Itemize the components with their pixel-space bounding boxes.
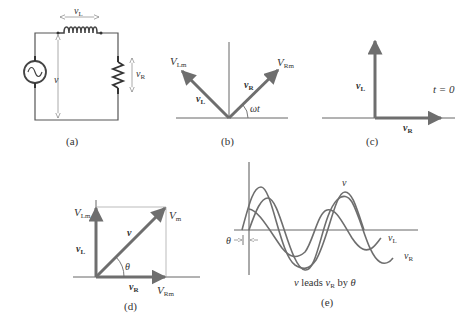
angle-arc <box>116 257 124 277</box>
caption-c: (c) <box>366 135 379 148</box>
wire-top-right <box>101 33 118 58</box>
panel-a-circuit: vL v vR (a) <box>24 5 145 148</box>
label-VRm: VRm <box>277 56 294 70</box>
label-vL: vL <box>388 232 397 245</box>
wire-bottom <box>35 83 118 120</box>
caption-e: (e) <box>321 296 334 309</box>
panel-c-phasors: vL vR t = 0 (c) <box>322 41 455 148</box>
phasor-Vm <box>96 208 165 277</box>
label-VLm: VLm <box>170 55 187 69</box>
caption-d: (d) <box>124 300 137 313</box>
label-vR: vR <box>129 281 139 294</box>
waveform-vR <box>249 196 393 270</box>
figure-canvas: vL v vR (a) VLm VRm vL vR ωt (b) vL vR t… <box>0 0 476 324</box>
label-theta: θ <box>125 261 130 272</box>
caption-a: (a) <box>66 135 79 148</box>
wire-top-left <box>35 33 58 61</box>
lead-note: v leads vR by θ <box>294 277 356 290</box>
label-v: v <box>127 227 132 238</box>
panel-b-phasors: VLm VRm vL vR ωt (b) <box>170 42 294 148</box>
label-vR: vR <box>403 122 413 135</box>
label-vL: vL <box>76 243 85 256</box>
label-VLm: VLm <box>74 206 91 220</box>
ac-source-icon <box>24 56 46 88</box>
label-vR: vR <box>136 68 145 81</box>
label-Vm: Vm <box>169 209 182 223</box>
panel-d-phasor-sum: VLm Vm v vL θ vR VRm (d) <box>73 200 200 313</box>
label-v: v <box>54 74 59 85</box>
angle-arc <box>243 105 248 118</box>
label-omega-t: ωt <box>250 103 260 114</box>
panel-e-waveforms: θ v vL vR v leads vR by θ (e) <box>226 162 418 309</box>
label-t-equals-0: t = 0 <box>433 83 455 95</box>
label-vL: vL <box>356 80 365 93</box>
resistor-icon <box>113 56 123 94</box>
label-vR: vR <box>404 250 413 263</box>
label-theta: θ <box>226 235 231 246</box>
waveform-vL <box>249 209 381 257</box>
label-vL: vL <box>74 5 83 18</box>
label-v: v <box>342 177 347 188</box>
caption-b: (b) <box>221 135 234 148</box>
inductor-icon <box>57 27 103 35</box>
label-VRm: VRm <box>157 284 174 298</box>
phasor-VLm <box>182 71 229 118</box>
label-vR: vR <box>244 79 254 92</box>
